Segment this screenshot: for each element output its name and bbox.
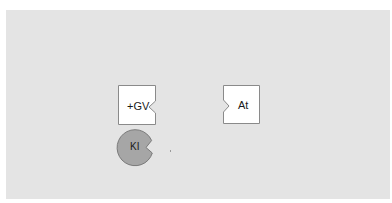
node-at: At — [223, 85, 260, 124]
node-ki-label: KI — [130, 142, 139, 152]
node-gv-label: +GV — [127, 101, 149, 112]
node-at-label: At — [238, 100, 248, 111]
diagram-panel — [6, 10, 390, 199]
scan-artifact — [170, 150, 171, 152]
node-gv: +GV — [118, 85, 156, 125]
diagram-canvas: +GV At KI — [0, 0, 392, 203]
node-ki: KI — [117, 128, 155, 166]
